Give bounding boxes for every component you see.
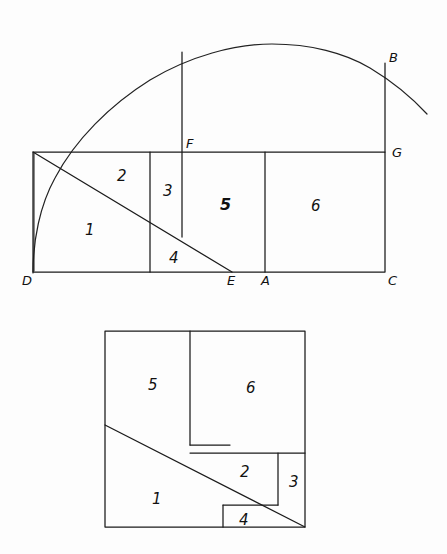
upper-region-label-3: 3 bbox=[163, 182, 173, 200]
lower-region-label-6: 6 bbox=[246, 379, 256, 397]
vertex-label-C: C bbox=[388, 273, 398, 288]
lower-region-label-2: 2 bbox=[240, 463, 250, 481]
upper-region-label-6: 6 bbox=[311, 197, 321, 215]
diagram-canvas: 1 2 3 4 5 6 D E A C F G B bbox=[0, 0, 447, 554]
vertex-label-E: E bbox=[227, 273, 236, 288]
lower-figure-group: 1 2 3 4 5 6 bbox=[105, 331, 305, 529]
vertex-label-G: G bbox=[392, 145, 402, 160]
upper-figure-group: 1 2 3 4 5 6 D E A C F G B bbox=[22, 44, 427, 288]
lower-region-label-3: 3 bbox=[289, 473, 299, 491]
vertex-label-D: D bbox=[22, 273, 32, 288]
diagonal-DE bbox=[33, 152, 232, 272]
lower-region-label-1: 1 bbox=[152, 490, 162, 508]
outer-square-lower bbox=[105, 331, 305, 527]
upper-region-label-5: 5 bbox=[220, 195, 231, 214]
lower-region-label-4: 4 bbox=[239, 511, 249, 529]
vertex-label-B: B bbox=[389, 50, 398, 65]
hand-drawn-diagram: 1 2 3 4 5 6 D E A C F G B bbox=[0, 0, 447, 554]
outer-rectangle-upper bbox=[33, 152, 385, 272]
lower-region-label-5: 5 bbox=[148, 376, 158, 394]
upper-region-label-1: 1 bbox=[85, 221, 95, 239]
vertex-label-F: F bbox=[186, 136, 194, 151]
lower-diagonal bbox=[105, 425, 305, 527]
upper-region-label-2: 2 bbox=[117, 167, 127, 185]
upper-region-label-4: 4 bbox=[169, 249, 179, 267]
vertex-label-A: A bbox=[260, 273, 270, 288]
